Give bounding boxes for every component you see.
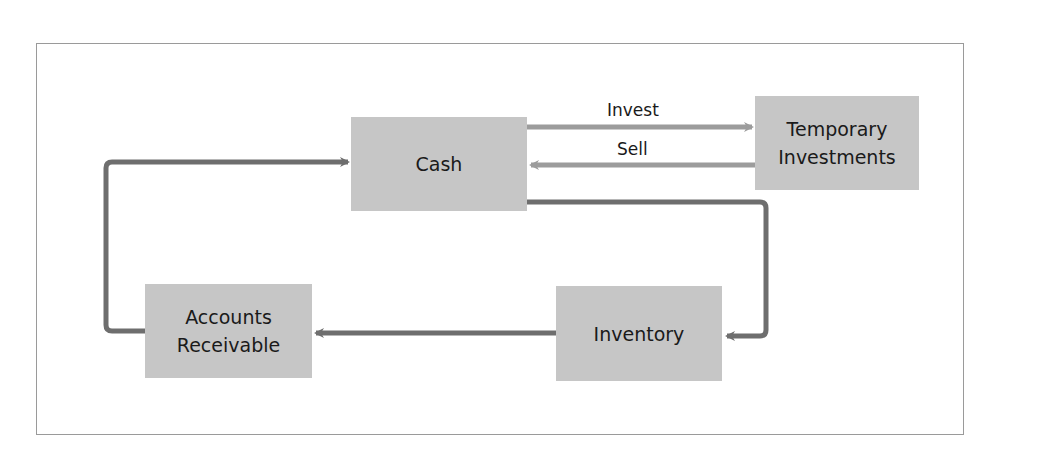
cash-node: Cash	[351, 117, 527, 211]
inventory-node: Inventory	[556, 286, 722, 381]
temporary-investments-node: Temporary Investments	[755, 96, 919, 190]
accounts-receivable-node: Accounts Receivable	[145, 284, 312, 378]
temporary-investments-label-line2: Investments	[778, 143, 896, 171]
cash-label: Cash	[416, 150, 463, 178]
accounts-receivable-label-line1: Accounts	[177, 303, 280, 331]
connector-arrows	[0, 0, 1038, 464]
inventory-label: Inventory	[594, 320, 685, 348]
invest-edge-label: Invest	[607, 100, 659, 120]
accounts-receivable-label-line2: Receivable	[177, 331, 280, 359]
temporary-investments-label-line1: Temporary	[778, 115, 896, 143]
sell-edge-label: Sell	[617, 139, 648, 159]
